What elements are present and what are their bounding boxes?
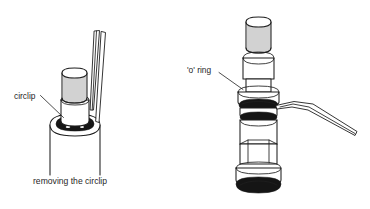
left-assembly-group: circlip removing the circlip [14,31,107,187]
o-ring-label: 'o' ring [187,65,211,75]
left-panel-caption: removing the circlip [33,176,107,186]
technical-illustration-figure: circlip removing the circlip [0,0,370,209]
left-knurled-cap [62,68,87,104]
left-circlip-leader-line [41,96,64,118]
left-circlip-pliers-tool [91,31,106,123]
right-o-ring-leader-line [219,73,243,90]
right-hex-nut [240,140,277,164]
right-neck [246,79,271,92]
right-upper-barrel [243,52,274,79]
illustration-canvas: circlip removing the circlip [0,0,370,209]
right-pick-hook-tool [276,102,357,136]
circlip-label: circlip [14,91,36,101]
right-assembly-group: 'o' ring [187,17,357,193]
right-knurled-cap [246,17,271,56]
right-base-seal-ring [236,177,281,193]
